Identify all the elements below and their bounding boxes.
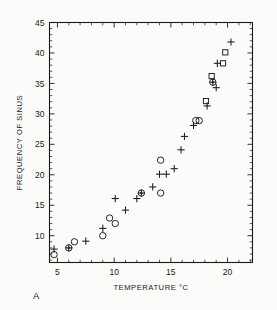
y-axis-tick-label: 20 [35,170,45,180]
y-axis-title: FREQUENCY OF SINUS [15,95,24,190]
plot-axes: 51015201015202530354045 [35,18,252,277]
x-axis-tick-label: 5 [55,267,60,277]
scatter-plot: 51015201015202530354045 TEMPERATURE °C F… [0,0,277,310]
data-point-overlap-dot [212,81,214,83]
y-axis-tick-label: 45 [35,18,45,28]
data-point-square [220,61,225,66]
data-point-overlap-dot [68,247,70,249]
y-axis-tick-label: 10 [35,231,45,241]
data-point-circle [157,157,163,163]
panel-label: A [33,290,40,301]
data-point-overlap-dot [140,192,142,194]
data-point-circle [157,190,163,196]
x-axis-title: TEMPERATURE °C [113,283,188,292]
data-point-circle [112,220,118,226]
y-axis-tick-label: 35 [35,79,45,89]
x-axis-tick-label: 20 [223,267,233,277]
x-axis-tick-label: 15 [166,267,176,277]
data-point-circle [71,239,77,245]
plot-frame [50,23,253,263]
y-axis-tick-label: 40 [35,48,45,58]
data-point-square [223,50,228,55]
data-point-square [209,74,214,79]
data-point-square [203,98,208,103]
y-axis-tick-label: 30 [35,109,45,119]
figure-panel-a: 51015201015202530354045 TEMPERATURE °C F… [0,0,277,310]
data-point-circle [100,232,106,238]
x-axis-tick-label: 10 [109,267,119,277]
y-axis-tick-label: 25 [35,139,45,149]
y-axis-tick-label: 15 [35,200,45,210]
data-point-circle [106,215,112,221]
data-markers [50,38,234,257]
